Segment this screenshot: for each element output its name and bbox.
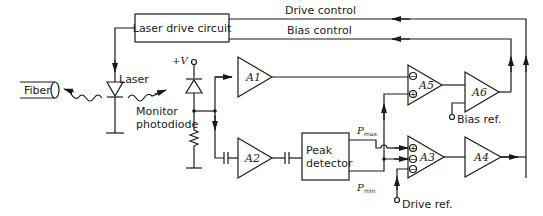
a3-plus-sign: + — [410, 144, 417, 153]
amplifier-a4: A4 — [465, 137, 526, 177]
a2-label: A2 — [244, 152, 260, 165]
a1-label: A1 — [245, 71, 261, 84]
a5-minus-sign: − — [410, 72, 417, 81]
peak-detector-label-1: Peak — [306, 144, 333, 157]
amplifier-a3: + − − A3 Drive ref. — [395, 136, 466, 211]
laser-drive-circuit-block: Laser drive circuit — [133, 14, 232, 42]
amplifier-a1: A1 — [238, 57, 408, 97]
load-resistor — [186, 128, 202, 168]
laser-label: Laser — [119, 73, 149, 86]
pmin-label: P — [356, 182, 364, 193]
pmax-signal: P max — [349, 125, 408, 148]
a3-minus-sign-2: − — [410, 165, 417, 174]
a6-label: A6 — [471, 86, 487, 99]
a4-label: A4 — [473, 151, 489, 164]
amplifier-a2: A2 — [238, 138, 272, 178]
optical-transmitter-control-diagram: Laser drive circuit Drive control Bias c… — [0, 0, 543, 216]
laser-drive-circuit-label: Laser drive circuit — [133, 22, 232, 35]
a3-minus-sign-1: − — [410, 155, 417, 164]
fiber-label: Fiber — [24, 84, 51, 97]
drive-control-label: Drive control — [285, 4, 356, 17]
amplifier-a6: A6 Bias ref. — [450, 72, 512, 126]
pmax-label: P — [356, 125, 364, 136]
monitor-label-line1: Monitor — [136, 105, 178, 118]
pmin-subscript: min — [364, 187, 376, 194]
bias-control-label: Bias control — [287, 24, 352, 37]
bias-control-line: Bias control — [229, 24, 511, 92]
pmax-subscript: max — [364, 130, 378, 137]
monitor-label-line2: photodiode — [136, 118, 198, 131]
peak-detector-block: Peak detector — [302, 133, 353, 180]
amplifier-a5: − + A5 — [408, 65, 465, 105]
a5-plus-sign: + — [410, 90, 417, 99]
drive-ref-label: Drive ref. — [402, 198, 452, 211]
bias-ref-label: Bias ref. — [457, 113, 501, 126]
light-to-fiber — [70, 92, 102, 101]
coupling-capacitor-2 — [272, 152, 302, 164]
a3-label: A3 — [419, 151, 435, 164]
fiber: Fiber — [20, 82, 59, 98]
pmin-signal: P min — [349, 94, 408, 194]
supply-label: +V — [172, 55, 189, 66]
a5-label: A5 — [418, 79, 434, 92]
peak-detector-label-2: detector — [306, 157, 353, 170]
coupling-capacitor-1 — [224, 152, 238, 164]
